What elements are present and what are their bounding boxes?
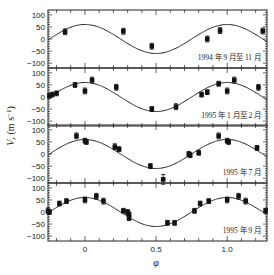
data-point [73,83,78,88]
data-point [243,198,248,204]
data-point [263,208,268,213]
data-point [114,84,119,90]
data-point [64,199,69,204]
data-point [225,197,230,203]
y-tick-label: 50 [36,196,45,205]
x-axis-title: φ [153,257,159,268]
data-point [256,84,261,90]
panel-3: 100500−50−1001995 年 7 月 [27,125,267,184]
data-point [226,140,231,145]
data-point [83,197,88,203]
y-tick-label: 50 [36,81,45,90]
y-tick-label: 0 [41,150,46,159]
data-point [47,210,52,215]
y-tick-label: −100 [27,174,46,183]
y-tick-label: −50 [31,220,45,229]
data-point [50,92,55,97]
panel-1: 100500−50−1001994 年 9 月至 11 月 [27,10,267,68]
y-tick-label: −100 [27,59,46,68]
data-point [148,164,153,169]
y-tick-label: 100 [32,184,46,193]
data-point [57,201,62,206]
data-point [196,150,201,155]
data-point [260,28,265,34]
panels: 100500−50−1001994 年 9 月至 11 月100500−50−1… [27,10,268,241]
panel-label: 1995 年 9 月 [223,225,261,235]
data-point [232,77,237,83]
data-point [127,216,132,221]
data-point [101,198,106,204]
y-tick-label: 0 [41,93,46,102]
panel-label: 1994 年 9 月至 11 月 [198,52,261,62]
data-point [188,153,193,158]
y-tick-label: 50 [36,23,45,32]
y-tick-label: −50 [31,47,45,56]
x-tick-label: 0 [83,245,88,254]
data-point [94,193,99,199]
data-point [205,90,210,95]
data-point [216,81,221,86]
y-axis-title: Vr (m s−1) [5,106,18,146]
data-point [218,28,223,34]
data-point [121,28,126,34]
y-tick-label: 100 [32,126,46,135]
x-tick-label: 0.5 [151,245,163,254]
y-tick-label: −100 [27,117,46,126]
data-point [121,208,126,213]
y-tick-label: −100 [27,232,46,241]
data-point [174,104,179,110]
radial-velocity-chart: 100500−50−1001994 年 9 月至 11 月100500−50−1… [0,0,274,275]
panel-label: 1995 年 1 月至 2 月 [201,110,261,120]
data-point [165,220,170,225]
data-point [255,146,260,151]
model-curve [48,83,267,112]
x-tick-label: 1.0 [222,245,234,254]
data-point [150,43,155,49]
panel-2: 100500−50−1001995 年 1 月至 2 月 [27,68,267,126]
model-curve [48,25,267,54]
panel-4: 100500−50−1001995 年 9 月 [27,183,268,241]
model-curve [48,140,267,169]
data-point [199,92,204,97]
data-point [90,77,95,83]
y-tick-label: 100 [32,11,46,20]
data-point [83,88,88,94]
data-point [74,133,79,139]
y-tick-label: −50 [31,162,45,171]
y-tick-label: 50 [36,138,45,147]
data-point [113,144,118,150]
y-tick-label: −50 [31,105,45,114]
x-tick-labels: 00.51.0 [83,245,234,254]
data-point [225,88,230,94]
data-point [150,107,155,112]
data-point [54,91,59,96]
data-point [63,29,68,35]
data-point [206,199,211,204]
data-point [216,133,221,139]
data-point [198,201,203,206]
y-tick-label: 0 [41,208,46,217]
panel-label: 1995 年 7 月 [223,167,261,177]
data-point [117,147,122,152]
data-point [192,208,197,213]
data-point [236,193,241,199]
data-point [172,220,177,225]
y-tick-label: 100 [32,69,46,78]
model-curve [48,198,267,227]
y-tick-label: 0 [41,35,46,44]
data-point [205,36,210,42]
data-point [84,140,89,145]
